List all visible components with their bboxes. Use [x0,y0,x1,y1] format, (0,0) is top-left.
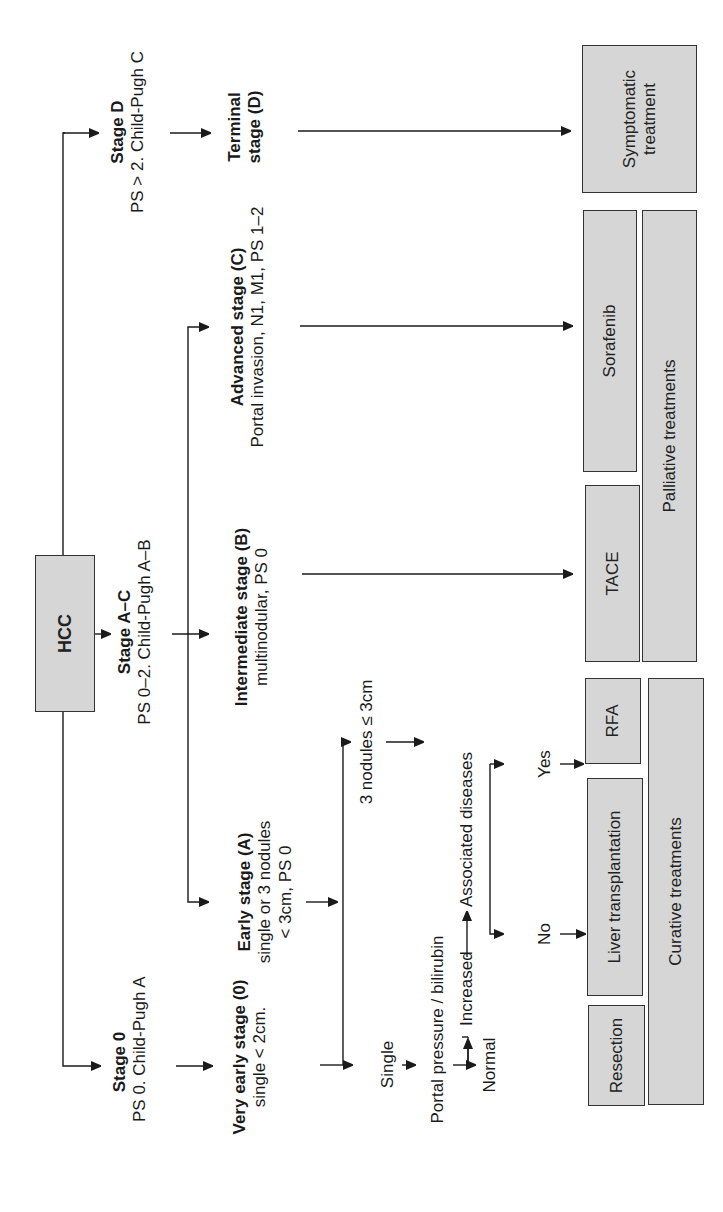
stage-0-title: Stage 0 [110,1002,130,1122]
curative-treatments-box: Curative treatments [648,678,704,1105]
terminal-title-1: Terminal [225,82,245,172]
symptomatic-line-2: treatment [640,83,660,155]
terminal-title-2: stage (D) [245,82,265,172]
normal-label: Normal [480,1035,500,1095]
terminal-stage-label: Terminal stage (D) [225,82,266,172]
stage-0-label: Stage 0 PS 0. Child-Pugh A [110,1002,151,1122]
symptomatic-line-1: Symptomatic [620,70,640,168]
bclc-staging-diagram: HCC Stage 0 PS 0. Child-Pugh A Stage A–C… [0,0,723,1212]
stage-ac-label: Stage A–C PS 0–2. Child-Pugh A–B [115,507,156,757]
very-early-detail: single < 2cm. [250,972,270,1142]
no-label: No [535,918,555,950]
associated-diseases-label: Associated diseases [457,752,477,907]
intermediate-stage-label: Intermediate stage (B) multinodular, PS … [232,517,273,717]
very-early-stage-label: Very early stage (0) single < 2cm. [230,972,271,1142]
rfa-box: RFA [585,678,641,764]
stage-0-criteria: PS 0. Child-Pugh A [130,1002,150,1122]
very-early-title: Very early stage (0) [230,972,250,1142]
stage-d-title: Stage D [108,32,128,232]
early-stage-label: Early stage (A) single or 3 nodules < 3c… [235,812,296,972]
intermediate-title: Intermediate stage (B) [232,517,252,717]
palliative-treatments-box: Palliative treatments [642,210,697,662]
advanced-title: Advanced stage (C) [228,192,248,462]
portal-pressure-label: Portal pressure / bilirubin [428,922,448,1137]
yes-label: Yes [535,746,555,782]
stage-d-label: Stage D PS > 2. Child-Pugh C [108,32,149,232]
increased-label: Increased [457,951,477,1026]
stage-ac-to-advanced-arrow [188,327,208,674]
stage-ac-criteria: PS 0–2. Child-Pugh A–B [135,507,155,757]
resection-box: Resection [588,1005,645,1106]
symptomatic-treatment-box: Symptomatic treatment [582,45,697,193]
intermediate-detail: multinodular, PS 0 [252,517,272,717]
three-nodules-label: 3 nodules ≤ 3cm [357,672,377,812]
early-title: Early stage (A) [235,812,255,972]
hcc-root-box: HCC [35,555,95,712]
single-label: Single [378,1037,398,1092]
stage-ac-title: Stage A–C [115,507,135,757]
advanced-stage-label: Advanced stage (C) Portal invasion, N1, … [228,192,269,462]
sorafenib-box: Sorafenib [583,210,637,472]
early-detail-2: < 3cm, PS 0 [276,812,296,972]
liver-transplantation-box: Liver transplantation [587,778,643,996]
early-detail-1: single or 3 nodules [255,812,275,972]
stage-ac-to-early-arrow [188,674,208,902]
advanced-detail: Portal invasion, N1, M1, PS 1–2 [248,192,268,462]
stage-d-criteria: PS > 2. Child-Pugh C [128,32,148,232]
tace-box: TACE [585,485,640,662]
